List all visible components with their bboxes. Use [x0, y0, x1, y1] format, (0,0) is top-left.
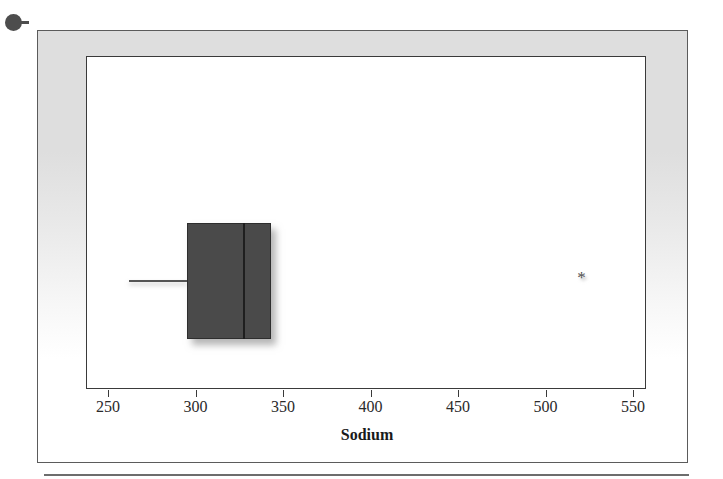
x-axis-title: Sodium: [87, 426, 647, 444]
page-bottom-rule: [44, 474, 689, 476]
x-tick-mark: [371, 390, 372, 397]
x-tick-label: 400: [359, 398, 383, 416]
figure-page: * 250300350400450500550 Sodium: [0, 0, 723, 479]
x-tick-mark: [108, 390, 109, 397]
x-tick-mark: [283, 390, 284, 397]
bullet-marker-stem-icon: [20, 21, 29, 24]
boxplot-median-line: [243, 223, 245, 339]
x-tick-mark: [196, 390, 197, 397]
x-tick-label: 250: [96, 398, 120, 416]
x-tick-mark: [633, 390, 634, 397]
x-tick-mark: [458, 390, 459, 397]
boxplot-lower-whisker: [129, 280, 187, 282]
boxplot-box: [187, 223, 271, 339]
x-tick-label: 300: [184, 398, 208, 416]
x-tick-label: 550: [621, 398, 645, 416]
x-tick-label: 450: [446, 398, 470, 416]
x-tick-label: 500: [534, 398, 558, 416]
plot-inner: * 250300350400450500550 Sodium: [87, 57, 645, 388]
boxplot-outlier-marker: *: [577, 269, 586, 286]
figure-frame: * 250300350400450500550 Sodium: [37, 30, 688, 463]
plot-area: * 250300350400450500550 Sodium: [86, 56, 646, 389]
x-tick-mark: [546, 390, 547, 397]
x-tick-label: 350: [271, 398, 295, 416]
